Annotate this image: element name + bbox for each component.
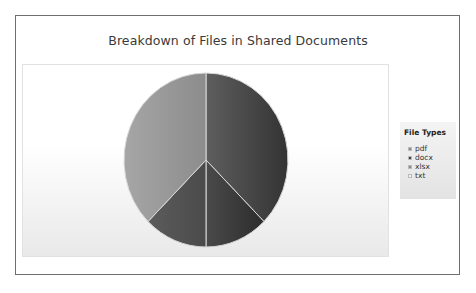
legend-item-pdf: pdf xyxy=(408,144,456,153)
legend-swatch xyxy=(408,156,412,160)
legend-label: xlsx xyxy=(415,162,430,171)
legend-item-xlsx: xlsx xyxy=(408,162,456,171)
legend-swatch xyxy=(408,147,412,151)
legend-item-txt: txt xyxy=(408,171,456,180)
legend: File Types pdf docx xlsx txt xyxy=(400,122,456,199)
legend-swatch xyxy=(408,174,412,178)
legend-label: docx xyxy=(415,153,433,162)
legend-label: txt xyxy=(415,171,425,180)
legend-swatch xyxy=(408,165,412,169)
legend-item-docx: docx xyxy=(408,153,456,162)
legend-title: File Types xyxy=(404,128,456,137)
legend-label: pdf xyxy=(415,144,427,153)
